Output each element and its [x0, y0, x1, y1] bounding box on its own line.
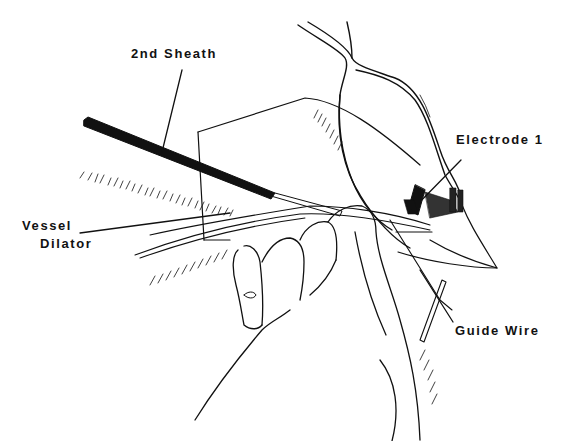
hand-drawing — [195, 206, 420, 441]
illustration-canvas: 2nd Sheath Electrode 1 Vessel Dilator Gu… — [0, 0, 562, 441]
dilator-drawing — [135, 206, 430, 258]
label-electrode-1: Electrode 1 — [456, 132, 544, 148]
label-dilator: Dilator — [40, 236, 92, 252]
label-guide-wire: Guide Wire — [455, 323, 540, 339]
guide-wire-leader — [420, 270, 453, 322]
label-vessel: Vessel — [22, 218, 72, 234]
label-2nd-sheath: 2nd Sheath — [131, 46, 217, 62]
retractor-drawing — [390, 220, 452, 342]
sheath-drawing — [84, 117, 342, 216]
surgical-illustration — [0, 0, 562, 441]
electrode-drawing — [404, 185, 463, 218]
sheath-leader — [162, 70, 182, 152]
